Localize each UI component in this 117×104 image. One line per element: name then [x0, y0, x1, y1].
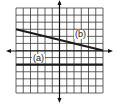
- x-axis-left-arrow-icon: [6, 49, 11, 53]
- line-b-label: (b): [74, 30, 87, 39]
- y-axis-bottom-arrow-icon: [58, 98, 62, 103]
- x-axis-right-arrow-icon: [108, 49, 113, 53]
- coordinate-graph: [0, 0, 117, 104]
- line-a-label: (a): [32, 54, 45, 63]
- y-axis-top-arrow-icon: [58, 0, 62, 5]
